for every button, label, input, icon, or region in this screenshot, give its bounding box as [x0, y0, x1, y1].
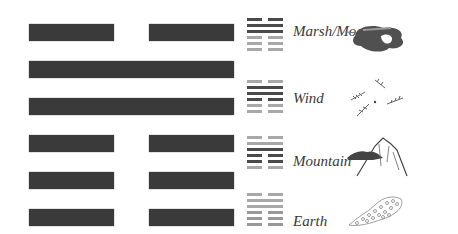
- hexagram-line-6-right: [149, 209, 234, 226]
- hexagram-line-4-left: [29, 135, 114, 152]
- trigram-label: Wind: [293, 90, 324, 107]
- moon-cloud-icon: [343, 16, 413, 60]
- hexagram-line-3: [29, 98, 234, 115]
- hexagram-line-5-right: [149, 172, 234, 189]
- trigram-row-mountain: Mountain: [245, 136, 458, 184]
- mountain-icon: [343, 136, 413, 180]
- hexagram-line-2: [29, 61, 234, 78]
- hexagram-line-5-left: [29, 172, 114, 189]
- hexagram-line-4-right: [149, 135, 234, 152]
- earth-soil-icon: [343, 187, 413, 231]
- trigram-row-wind: Wind: [245, 80, 458, 128]
- trigram-row-earth: Earth: [245, 193, 458, 234]
- hexagram-line-6-left: [29, 209, 114, 226]
- trigram-row-marsh: Marsh/Moon: [245, 18, 458, 66]
- hexagram-line-1-right: [149, 24, 234, 41]
- trigram-label: Earth: [293, 213, 327, 230]
- wind-leaves-icon: [343, 76, 413, 120]
- hexagram-line-1-left: [29, 24, 114, 41]
